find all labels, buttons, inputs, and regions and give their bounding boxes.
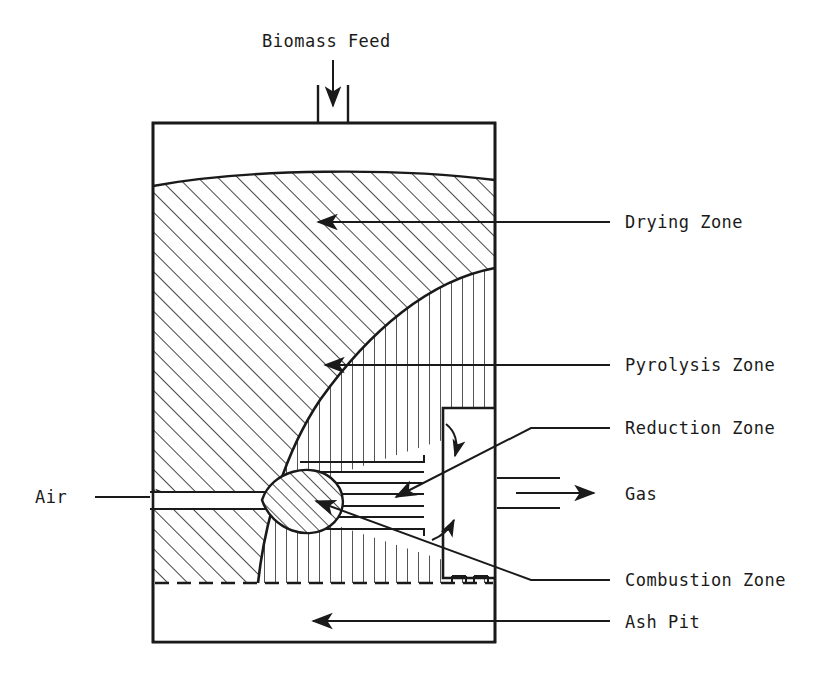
air-label: Air <box>35 487 67 507</box>
combustion-zone-label: Combustion Zone <box>625 570 786 590</box>
ash-pit-fill <box>155 585 493 641</box>
gas-outlet-stream: Gas <box>497 478 657 508</box>
biomass-feed-stream: Biomass Feed <box>262 31 391 123</box>
pyrolysis-zone-label: Pyrolysis Zone <box>625 355 775 375</box>
ash-pit-region <box>155 585 493 641</box>
gasifier-diagram-page: Biomass Feed <box>0 0 840 677</box>
drying-zone-label: Drying Zone <box>625 212 743 232</box>
gas-label: Gas <box>625 484 657 504</box>
biomass-feed-label: Biomass Feed <box>262 31 391 51</box>
tuyere-channel <box>150 492 262 509</box>
ash-pit-label: Ash Pit <box>625 612 700 632</box>
gasifier-cross-section-svg: Biomass Feed <box>0 0 840 677</box>
throat-chamber-fill <box>443 408 495 578</box>
reduction-zone-label: Reduction Zone <box>625 418 775 438</box>
